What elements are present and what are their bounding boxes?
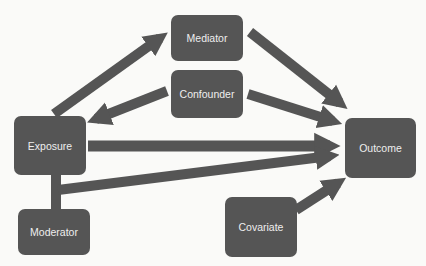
node-exposure: Exposure <box>14 116 86 175</box>
node-moderator: Moderator <box>18 209 90 255</box>
arrow-confounder-to-outcome <box>248 94 333 121</box>
node-covariate-label: Covariate <box>239 221 284 233</box>
node-confounder-label: Confounder <box>180 88 235 100</box>
node-outcome: Outcome <box>345 118 416 178</box>
node-confounder: Confounder <box>171 70 243 118</box>
node-mediator-label: Mediator <box>187 32 228 44</box>
node-moderator-label: Moderator <box>30 226 78 238</box>
node-outcome-label: Outcome <box>359 142 402 154</box>
arrow-covariate-to-outcome <box>296 183 338 210</box>
node-covariate: Covariate <box>225 197 297 257</box>
arrow-mediator-to-outcome <box>250 32 340 103</box>
arrow-moderator-to-outcome <box>58 156 330 190</box>
node-exposure-label: Exposure <box>28 140 72 152</box>
arrow-confounder-to-exposure <box>96 91 167 119</box>
node-mediator: Mediator <box>171 15 243 61</box>
